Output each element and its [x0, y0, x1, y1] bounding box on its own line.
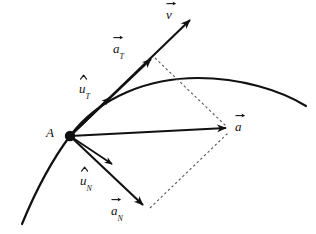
unit-tangential-symbol-group: uT: [79, 80, 90, 99]
unit-normal-label: uN: [80, 172, 92, 191]
total-acceleration-label: a: [235, 118, 242, 134]
total-acceleration-vector-arrow: [70, 128, 226, 136]
vector-arrow-accent-icon: [235, 111, 244, 118]
unit-normal-symbol: u: [80, 173, 87, 188]
tangential-acceleration-symbol-group: aT: [113, 40, 124, 59]
unit-normal-symbol-group: uN: [80, 172, 92, 191]
unit-normal-subscript: N: [87, 184, 92, 193]
normal-acceleration-symbol: a: [111, 203, 118, 218]
velocity-symbol-group: v: [166, 6, 172, 22]
dashed-line-tangential-to-resultant: [155, 58, 226, 126]
unit-tangential-subscript: T: [86, 92, 90, 101]
normal-acceleration-subscript: N: [118, 214, 123, 223]
point-a-label: A: [46, 126, 54, 139]
tangential-acceleration-label: aT: [113, 40, 124, 59]
velocity-vector-label: v: [166, 6, 172, 22]
hat-accent-icon: [79, 73, 88, 80]
tangential-acceleration-symbol: a: [113, 41, 120, 56]
normal-acceleration-symbol-group: aN: [111, 202, 123, 221]
unit-tangential-symbol: u: [79, 81, 86, 96]
unit-tangential-label: uT: [79, 80, 90, 99]
dashed-line-normal-to-resultant: [150, 133, 228, 208]
point-a-marker-dot: [65, 131, 75, 141]
total-acceleration-symbol-group: a: [235, 118, 242, 134]
total-acceleration-symbol: a: [235, 119, 242, 134]
vector-arrow-accent-icon: [111, 195, 120, 202]
trajectory-curve: [22, 78, 306, 224]
point-a-label-text: A: [46, 125, 54, 140]
normal-acceleration-label: aN: [111, 202, 123, 221]
unit-tangential-vector-arrow: [70, 98, 109, 136]
physics-vector-diagram: A v aT: [0, 0, 316, 234]
hat-accent-icon: [80, 165, 89, 172]
tangential-acceleration-subscript: T: [120, 52, 124, 61]
unit-normal-vector-arrow: [70, 136, 112, 164]
velocity-symbol: v: [166, 7, 172, 22]
vector-arrow-accent-icon: [166, 0, 175, 6]
vector-arrow-accent-icon: [113, 33, 122, 40]
diagram-canvas: [0, 0, 316, 234]
